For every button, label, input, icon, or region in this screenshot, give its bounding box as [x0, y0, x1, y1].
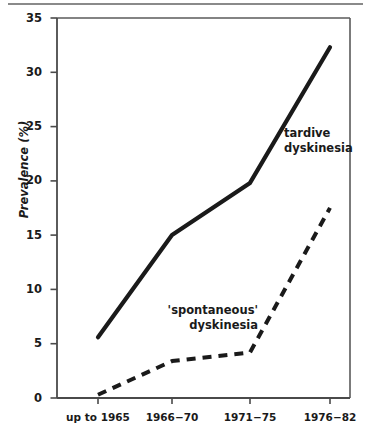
series-label-tardive-line1: tardive: [284, 126, 353, 141]
series-label-spontaneous-line2: dyskinesia: [160, 318, 258, 333]
plot-frame: [57, 18, 350, 398]
y-tick-label-35: 35: [12, 11, 42, 25]
series-label-tardive-line2: dyskinesia: [284, 141, 353, 156]
y-tick-label-25: 25: [12, 119, 42, 133]
series-label-spontaneous-dyskinesia: 'spontaneous' dyskinesia: [160, 303, 258, 333]
x-tick-label-1971-75: 1971−75: [224, 411, 277, 423]
y-tick-label-30: 30: [12, 65, 42, 79]
y-tick-label-15: 15: [12, 228, 42, 242]
series-label-spontaneous-line1: 'spontaneous': [160, 303, 258, 318]
y-tick-label-10: 10: [12, 282, 42, 296]
y-tick-label-0: 0: [12, 391, 42, 405]
series-label-tardive-dyskinesia: tardive dyskinesia: [284, 126, 353, 156]
x-tick-label-1976-82: 1976−82: [304, 411, 357, 423]
y-tick-label-5: 5: [12, 336, 42, 350]
x-tick-label-1966-70: 1966−70: [146, 411, 199, 423]
series-line-tardive-dyskinesia: [98, 47, 330, 337]
chart-figure: Prevalence (%) 35 30 25 20 15 10 5 0 up …: [0, 0, 367, 436]
y-axis-title-text: Prevalence (%): [17, 121, 31, 218]
series-line-spontaneous-dyskinesia: [98, 208, 330, 395]
x-tick-label-up-to-1965: up to 1965: [66, 411, 130, 423]
y-axis-ticks: [51, 18, 58, 398]
y-tick-label-20: 20: [12, 173, 42, 187]
line-chart-plot: [0, 0, 367, 436]
